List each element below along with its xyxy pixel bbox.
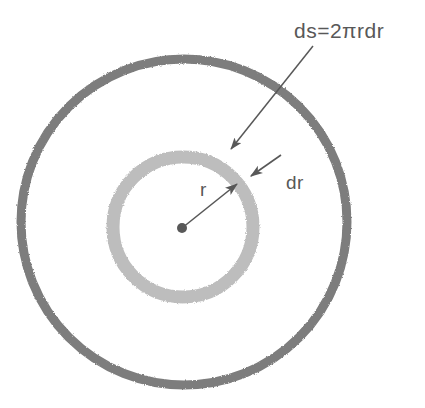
label-radius: r [200, 179, 207, 200]
thickness-arrow-icon [251, 155, 281, 176]
area-leader-arrow-icon [231, 46, 313, 149]
annulus-diagram-svg: ds=2πrdr dr r [0, 0, 425, 408]
label-area-element: ds=2πrdr [294, 19, 384, 42]
radius-arrow-icon [182, 184, 237, 228]
outer-circle [21, 59, 347, 385]
figure-canvas: ds=2πrdr dr r [0, 0, 425, 408]
label-thickness: dr [286, 172, 304, 193]
